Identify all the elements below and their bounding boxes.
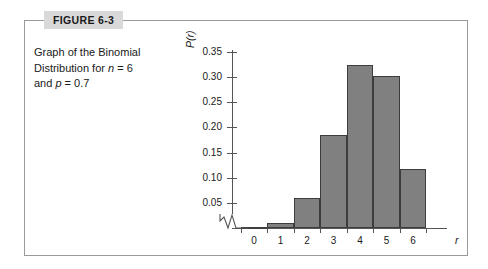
- bar: [400, 169, 427, 228]
- y-axis-tick: [227, 153, 237, 154]
- x-axis-tick: [294, 228, 295, 233]
- y-axis-tick-label: 0.10: [188, 173, 222, 183]
- x-axis-tick-label: 6: [403, 235, 423, 246]
- caption-line-3-pre: and: [34, 77, 55, 89]
- x-axis-tick-label: 1: [271, 235, 291, 246]
- y-axis-tick: [227, 203, 237, 204]
- y-axis-tick: [227, 127, 237, 128]
- bar: [294, 198, 321, 228]
- bar: [320, 135, 347, 228]
- y-axis-tick-label: 0.15: [188, 148, 222, 158]
- binomial-distribution-chart: P(r) r 0.050.100.150.200.250.300.35 0123…: [188, 36, 468, 246]
- x-axis-tick-label: 3: [324, 235, 344, 246]
- figure-border-left: [24, 20, 25, 256]
- bar: [347, 65, 374, 228]
- figure-number-label: FIGURE 6-3: [44, 11, 123, 29]
- bar: [373, 76, 400, 228]
- y-axis-tick-label: 0.35: [188, 47, 222, 57]
- x-axis-tick-label: 2: [297, 235, 317, 246]
- caption-line-2-pre: Distribution for: [34, 62, 108, 74]
- x-axis-tick: [400, 228, 401, 233]
- caption-line-1: Graph of the Binomial: [34, 46, 140, 58]
- x-axis-tick: [347, 228, 348, 233]
- figure-caption: Graph of the Binomial Distribution for n…: [34, 45, 184, 92]
- x-axis-tick: [426, 228, 427, 233]
- figure-border-bottom: [24, 255, 468, 256]
- x-axis-tick-label: 4: [350, 235, 370, 246]
- y-axis-tick: [227, 77, 237, 78]
- figure-container: FIGURE 6-3 Graph of the Binomial Distrib…: [0, 0, 488, 269]
- x-axis-title: r: [455, 234, 459, 246]
- y-axis-line: [232, 50, 233, 214]
- x-axis-tick-label: 0: [244, 235, 264, 246]
- caption-line-3-post: = 0.7: [62, 77, 90, 89]
- y-axis-tick-label: 0.25: [188, 97, 222, 107]
- y-axis-tick-label: 0.30: [188, 72, 222, 82]
- y-axis-tick: [227, 52, 237, 53]
- y-axis-tick: [227, 178, 237, 179]
- bar: [267, 223, 294, 228]
- caption-line-2-mid: = 6: [114, 62, 133, 74]
- figure-border-top-left: [24, 20, 44, 21]
- x-axis-tick: [373, 228, 374, 233]
- axis-break-icon: [218, 212, 248, 234]
- figure-border-top-right: [114, 20, 468, 21]
- x-axis-tick-label: 5: [377, 235, 397, 246]
- x-axis-tick: [267, 228, 268, 233]
- y-axis-title: P(r): [184, 31, 196, 49]
- x-axis-tick: [320, 228, 321, 233]
- y-axis-tick: [227, 102, 237, 103]
- y-axis-tick-label: 0.05: [188, 198, 222, 208]
- y-axis-tick-label: 0.20: [188, 122, 222, 132]
